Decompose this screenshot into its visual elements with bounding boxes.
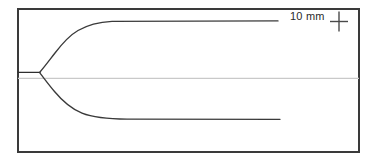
- plot-frame: [18, 9, 359, 152]
- scale-bar-label: 10 mm: [290, 10, 325, 23]
- bifurcation-diagram: [0, 0, 374, 164]
- figure-root: 10 mm: [0, 0, 374, 164]
